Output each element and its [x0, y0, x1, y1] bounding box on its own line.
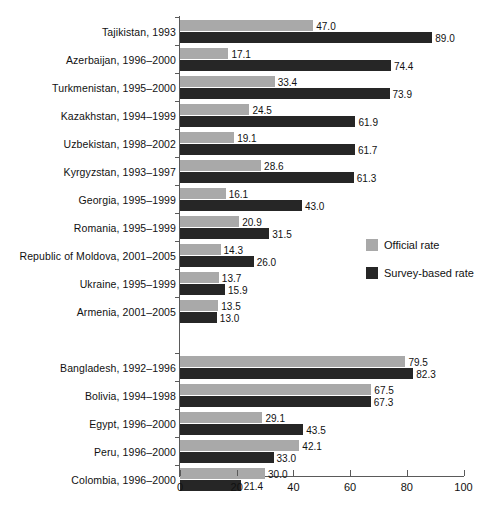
bar-value-survey: 21.4 [244, 481, 263, 492]
category-label: Kazakhstan, 1994–1999 [61, 110, 176, 122]
x-axis-tick [180, 470, 181, 476]
figure-caption [22, 512, 472, 521]
bar-survey-rate [180, 312, 217, 323]
bar-value-survey: 67.3 [374, 397, 393, 408]
bar-survey-rate [180, 116, 355, 127]
bar-value-survey: 33.0 [277, 453, 296, 464]
x-axis-tick-label: 40 [287, 481, 299, 494]
category-label: Uzbekistan, 1998–2002 [64, 138, 176, 150]
bar-survey-rate [180, 396, 371, 407]
bar-value-official: 29.1 [265, 413, 284, 424]
bar-survey-rate [180, 32, 432, 43]
bar-value-survey: 73.9 [393, 89, 412, 100]
bar-official-rate [180, 300, 218, 311]
bar-value-official: 17.1 [231, 49, 250, 60]
bar-official-rate [180, 356, 405, 367]
bar-value-official: 24.5 [252, 105, 271, 116]
bar-survey-rate [180, 88, 390, 99]
bar-value-official: 47.0 [316, 21, 335, 32]
x-axis-tick [237, 470, 238, 476]
bar-value-survey: 61.3 [357, 173, 376, 184]
bar-survey-rate [180, 200, 302, 211]
legend-label: Official rate [384, 238, 439, 252]
bar-value-survey: 15.9 [228, 285, 247, 296]
bar-value-official: 13.5 [221, 301, 240, 312]
bar-value-survey: 26.0 [257, 257, 276, 268]
bar-value-official: 28.6 [264, 161, 283, 172]
bar-official-rate [180, 272, 219, 283]
bar-survey-rate [180, 228, 269, 239]
y-axis-tick [175, 129, 179, 130]
category-label: Peru, 1996–2000 [94, 446, 176, 458]
y-axis-tick [175, 45, 179, 46]
bar-official-rate [180, 244, 221, 255]
x-axis-tick [293, 470, 294, 476]
bar-official-rate [180, 384, 371, 395]
category-label: Turkmenistan, 1995–2000 [52, 82, 176, 94]
y-axis-tick [175, 381, 179, 382]
bar-official-rate [180, 48, 228, 59]
bar-value-official: 67.5 [374, 385, 393, 396]
legend-swatch-survey [366, 267, 378, 279]
bar-official-rate [180, 440, 299, 451]
y-axis-tick [175, 437, 179, 438]
y-axis-tick [175, 269, 179, 270]
category-label: Azerbaijan, 1996–2000 [66, 54, 176, 66]
bar-value-official: 33.4 [278, 77, 297, 88]
bar-official-rate [180, 20, 313, 31]
x-axis-tick-label: 80 [401, 481, 413, 494]
bar-survey-rate [180, 256, 254, 267]
bar-survey-rate [180, 424, 303, 435]
bar-official-rate [180, 412, 262, 423]
bar-survey-rate [180, 284, 225, 295]
legend-swatch-official [366, 239, 378, 251]
y-axis-tick [175, 297, 179, 298]
category-label: Tajikistan, 1993 [102, 26, 176, 38]
bar-official-rate [180, 76, 275, 87]
bar-value-official: 30.0 [268, 469, 287, 480]
bar-official-rate [180, 160, 261, 171]
bar-official-rate [180, 104, 249, 115]
y-axis-tick [175, 241, 179, 242]
category-label: Ukraine, 1995–1999 [80, 278, 176, 290]
bar-value-official: 20.9 [242, 217, 261, 228]
x-axis-tick [464, 470, 465, 476]
legend-label: Survey-based rate [384, 266, 474, 280]
y-axis-tick [175, 157, 179, 158]
y-axis-tick [175, 17, 179, 18]
bar-survey-rate [180, 144, 355, 155]
bar-value-survey: 74.4 [394, 61, 413, 72]
category-label: Armenia, 2001–2005 [77, 306, 176, 318]
category-label: Kyrgyzstan, 1993–1997 [64, 166, 176, 178]
category-label: Bolivia, 1994–1998 [85, 390, 176, 402]
bar-value-survey: 43.0 [305, 201, 324, 212]
category-label: Republic of Moldova, 2001–2005 [19, 250, 176, 262]
bar-official-rate [180, 132, 234, 143]
bar-value-survey: 13.0 [220, 313, 239, 324]
y-axis-tick [175, 409, 179, 410]
bar-value-official: 42.1 [302, 441, 321, 452]
y-axis-tick [175, 185, 179, 186]
category-label: Colombia, 1996–2000 [71, 474, 176, 486]
bar-survey-rate [180, 368, 413, 379]
bar-value-survey: 61.7 [358, 145, 377, 156]
bar-official-rate [180, 468, 265, 479]
bar-value-survey: 82.3 [416, 369, 435, 380]
category-label: Egypt, 1996–2000 [89, 418, 176, 430]
bar-value-survey: 89.0 [435, 33, 454, 44]
bar-value-official: 16.1 [229, 189, 248, 200]
bar-official-rate [180, 216, 239, 227]
y-axis-tick [175, 213, 179, 214]
x-axis-tick-label: 60 [344, 481, 356, 494]
bar-value-survey: 61.9 [358, 117, 377, 128]
y-axis-tick [175, 73, 179, 74]
bar-value-official: 14.3 [224, 245, 243, 256]
x-axis-tick-label: 100 [454, 481, 472, 494]
x-axis-tick-label: 0 [177, 481, 183, 494]
x-axis-tick-label: 20 [231, 481, 243, 494]
bar-chart-plot: 47.089.017.174.433.473.924.561.919.161.7… [0, 0, 490, 521]
bar-survey-rate [180, 452, 274, 463]
bar-survey-rate [180, 172, 354, 183]
category-label: Romania, 1995–1999 [74, 222, 176, 234]
figure-container: 47.089.017.174.433.473.924.561.919.161.7… [0, 0, 490, 521]
